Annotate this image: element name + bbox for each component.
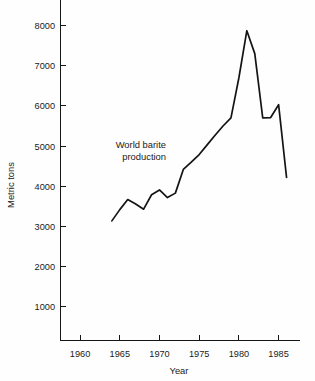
x-tick-label: 1960 [70,349,90,359]
data-series-line [112,31,287,221]
y-tick-label: 2000 [35,262,55,272]
x-tick-label: 1975 [189,349,209,359]
y-tick-label: 5000 [35,142,55,152]
line-chart: 8000 7000 6000 5000 4000 3000 2000 1000 … [0,0,315,381]
x-tick-label: 1985 [268,349,288,359]
x-axis-title: Year [170,365,189,376]
x-axis-tick-labels: 1960 1965 1970 1975 1980 1985 [70,349,289,359]
x-axis-ticks [80,335,279,341]
y-axis-title: Metric tons [5,162,16,208]
y-tick-label: 3000 [35,222,55,232]
y-tick-label: 1000 [35,302,55,312]
x-tick-label: 1965 [110,349,130,359]
annotation-line-2: production [122,151,166,162]
y-axis-tick-labels: 8000 7000 6000 5000 4000 3000 2000 1000 [35,21,55,312]
chart-figure: 8000 7000 6000 5000 4000 3000 2000 1000 … [0,0,315,381]
y-tick-label: 6000 [35,101,55,111]
y-tick-label: 7000 [35,61,55,71]
annotation-line-1: World barite [116,139,166,150]
x-tick-label: 1970 [149,349,169,359]
series-annotation: World barite production [116,139,166,162]
y-tick-label: 4000 [35,182,55,192]
x-tick-label: 1980 [229,349,249,359]
y-tick-label: 8000 [35,21,55,31]
y-axis-ticks [61,26,67,307]
